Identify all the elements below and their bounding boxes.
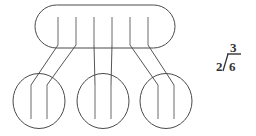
division-expression: 2 3 6 [216, 40, 241, 74]
connector-line [111, 45, 112, 85]
whole-group [35, 5, 175, 48]
group-3 [140, 74, 192, 129]
group-circle [13, 74, 65, 129]
whole-group-stadium [35, 5, 175, 48]
connector-line [47, 45, 76, 85]
diagram-canvas: 2 3 6 [0, 0, 256, 136]
connector-line [148, 45, 174, 85]
divisor-text: 2 [216, 59, 223, 74]
group-circle [77, 74, 129, 129]
quotient-text: 3 [230, 40, 237, 55]
group-circle [140, 74, 192, 129]
dividend-text: 6 [229, 59, 236, 74]
whole-group-tally-marks [58, 17, 148, 45]
division-grouping-diagram: 2 3 6 [0, 0, 256, 136]
connector-line [94, 45, 95, 85]
group-2 [77, 74, 129, 129]
connector-lines [31, 45, 174, 85]
connector-line [130, 45, 158, 85]
division-bracket-icon [223, 54, 228, 71]
group-1 [13, 74, 65, 129]
